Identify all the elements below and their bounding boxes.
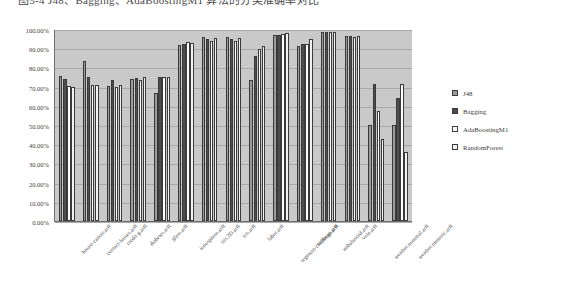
bar-group — [269, 30, 293, 221]
legend-item-label: Bagging — [463, 108, 486, 115]
bar[interactable] — [154, 93, 157, 221]
legend-item[interactable]: J48 — [452, 84, 557, 102]
bar[interactable] — [249, 80, 252, 221]
bar[interactable] — [115, 87, 118, 221]
y-axis-tick: 30.00% — [29, 161, 49, 168]
bar[interactable] — [130, 79, 133, 221]
bar[interactable] — [345, 36, 348, 221]
chart-legend: J48BaggingAdaBoostingM1RandomForest — [452, 84, 557, 156]
y-axis-tick: 60.00% — [29, 103, 49, 110]
bar-group — [388, 30, 412, 221]
bar[interactable] — [206, 39, 209, 221]
bar[interactable] — [190, 43, 193, 221]
bar-group — [198, 30, 222, 221]
bar[interactable] — [214, 38, 217, 221]
bar[interactable] — [111, 80, 114, 221]
y-axis-tick: 10.00% — [29, 199, 49, 206]
bar[interactable] — [91, 85, 94, 221]
bar[interactable] — [71, 87, 74, 221]
bar[interactable] — [258, 49, 261, 221]
bar[interactable] — [135, 78, 138, 221]
bar-group — [79, 30, 103, 221]
x-axis-tick-labels: breast-cancer.arffcontact-lenses.arffcre… — [54, 223, 412, 303]
x-axis-tick-label: soybean.arff — [316, 223, 340, 247]
bar[interactable] — [254, 56, 257, 221]
bar[interactable] — [368, 125, 371, 221]
bar[interactable] — [273, 35, 276, 221]
legend-item-label: RandomForest — [463, 144, 503, 151]
bar-group — [341, 30, 365, 221]
bar[interactable] — [158, 77, 161, 221]
legend-item[interactable]: AdaBoostingM1 — [452, 120, 557, 138]
bar[interactable] — [210, 41, 213, 221]
bar[interactable] — [404, 152, 407, 221]
y-axis-tick: 40.00% — [29, 142, 49, 149]
bar[interactable] — [143, 77, 146, 221]
y-axis-tick: 80.00% — [29, 65, 49, 72]
bar[interactable] — [377, 111, 380, 221]
bar-group — [222, 30, 246, 221]
figure-caption-strip: 图5-4 J48、Bagging、AdaBoostingM1 算法的分类准确率对… — [0, 0, 561, 13]
bar[interactable] — [396, 98, 399, 221]
y-axis-tick: 20.00% — [29, 180, 49, 187]
bar[interactable] — [95, 85, 98, 221]
bar[interactable] — [67, 86, 70, 221]
bar[interactable] — [202, 37, 205, 221]
legend-item-label: AdaBoostingM1 — [463, 126, 508, 133]
bar[interactable] — [333, 32, 336, 221]
bar-group — [174, 30, 198, 221]
y-axis-tick: 0.00% — [32, 219, 49, 226]
bar[interactable] — [301, 44, 304, 221]
legend-swatch-icon — [452, 108, 458, 114]
bar[interactable] — [238, 38, 241, 221]
bar[interactable] — [373, 84, 376, 221]
bar[interactable] — [400, 84, 403, 221]
bar[interactable] — [325, 32, 328, 221]
bar[interactable] — [230, 39, 233, 221]
bar[interactable] — [392, 125, 395, 221]
bar[interactable] — [262, 46, 265, 221]
bar-group — [103, 30, 127, 221]
legend-item[interactable]: Bagging — [452, 102, 557, 120]
bar[interactable] — [186, 42, 189, 221]
bar[interactable] — [139, 80, 142, 221]
y-axis-tick: 70.00% — [29, 84, 49, 91]
bar[interactable] — [329, 32, 332, 221]
x-axis-tick-label: glass.arff — [170, 223, 189, 242]
bar[interactable] — [59, 76, 62, 221]
bar[interactable] — [381, 139, 384, 221]
bar[interactable] — [349, 36, 352, 221]
x-axis-tick-label: labor.arff — [266, 223, 285, 242]
legend-item[interactable]: RandomForest — [452, 138, 557, 156]
x-axis-tick-label: iris.arff — [241, 223, 257, 239]
bar[interactable] — [162, 77, 165, 221]
bar[interactable] — [178, 45, 181, 221]
bar[interactable] — [63, 79, 66, 221]
bar[interactable] — [277, 35, 280, 221]
bar[interactable] — [119, 85, 122, 221]
bar-group — [150, 30, 174, 221]
bar[interactable] — [281, 34, 284, 221]
bar[interactable] — [357, 36, 360, 221]
bar[interactable] — [297, 46, 300, 221]
bar[interactable] — [234, 41, 237, 221]
bar[interactable] — [305, 44, 308, 221]
bar-groups — [55, 30, 412, 221]
bar[interactable] — [309, 39, 312, 221]
chart-page: 图5-4 J48、Bagging、AdaBoostingM1 算法的分类准确率对… — [0, 0, 561, 303]
y-axis-tick: 100.00% — [26, 27, 49, 34]
legend-swatch-icon — [452, 144, 458, 150]
bar[interactable] — [182, 44, 185, 221]
bar[interactable] — [285, 33, 288, 221]
bar[interactable] — [321, 32, 324, 221]
bar[interactable] — [87, 77, 90, 221]
bar-group — [126, 30, 150, 221]
bar[interactable] — [107, 86, 110, 221]
legend-swatch-icon — [452, 90, 458, 96]
legend-swatch-icon — [452, 126, 458, 132]
bar[interactable] — [353, 37, 356, 221]
bar[interactable] — [226, 37, 229, 221]
y-axis-tick: 50.00% — [29, 123, 49, 130]
bar[interactable] — [83, 61, 86, 221]
bar[interactable] — [167, 77, 170, 221]
